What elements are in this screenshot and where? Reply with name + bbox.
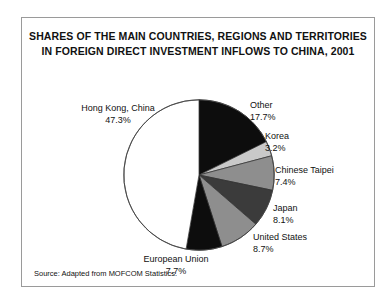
pie-label-value: 47.3% xyxy=(58,115,178,127)
pie-label-value: 7.4% xyxy=(275,177,370,189)
pie-label-name: United States xyxy=(253,232,343,244)
pie-label-chinese-taipei: Chinese Taipei 7.4% xyxy=(275,165,370,188)
pie-chart: Hong Kong, China 47.3% Other 17.7% Korea… xyxy=(22,18,376,288)
pie-label-value: 17.7% xyxy=(250,112,330,124)
pie-label-japan: Japan 8.1% xyxy=(273,203,343,226)
pie-label-name: European Union xyxy=(121,254,231,266)
pie-label-value: 8.1% xyxy=(273,215,343,227)
figure-frame: SHARES OF THE MAIN COUNTRIES, REGIONS AN… xyxy=(21,17,375,287)
pie-label-name: Other xyxy=(250,100,330,112)
pie-label-other: Other 17.7% xyxy=(250,100,330,123)
pie-label-value: 3.2% xyxy=(265,143,335,155)
pie-label-united-states: United States 8.7% xyxy=(253,232,343,255)
pie-label-name: Hong Kong, China xyxy=(58,103,178,115)
pie-label-hong-kong-china: Hong Kong, China 47.3% xyxy=(58,103,178,126)
pie-label-name: Japan xyxy=(273,203,343,215)
pie-label-name: Chinese Taipei xyxy=(275,165,370,177)
pie-label-value: 8.7% xyxy=(253,244,343,256)
pie-label-korea: Korea 3.2% xyxy=(265,131,335,154)
source-note: Source: Adapted from MOFCOM Statistics. xyxy=(34,269,177,278)
pie-label-name: Korea xyxy=(265,131,335,143)
